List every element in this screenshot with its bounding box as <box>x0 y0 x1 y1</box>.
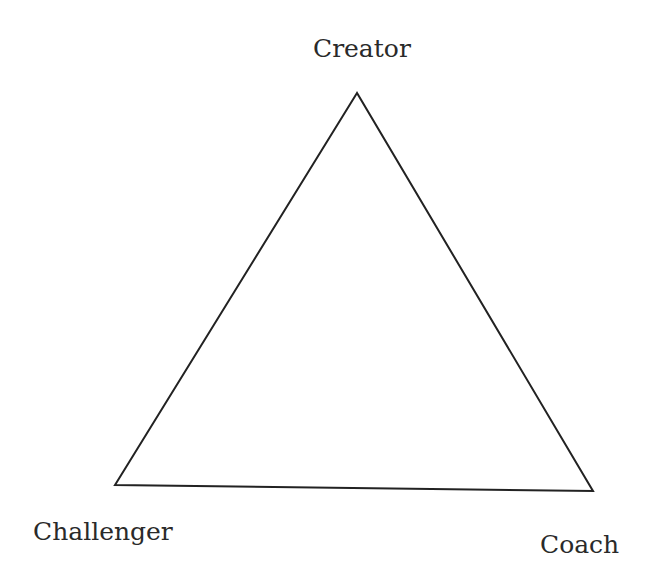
vertex-label-coach: Coach <box>540 532 619 557</box>
vertex-label-challenger: Challenger <box>33 519 173 544</box>
triangle-shape <box>115 93 593 491</box>
triangle-diagram <box>0 0 654 585</box>
vertex-label-creator: Creator <box>313 36 411 61</box>
